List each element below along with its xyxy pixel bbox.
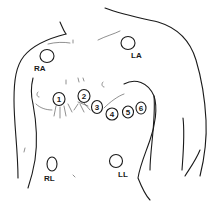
chest-electrodes: 1 2 3 4 5 6: [53, 90, 146, 121]
label-ll: LL: [118, 170, 128, 179]
label-ra: RA: [34, 64, 46, 73]
label-rl: RL: [44, 174, 55, 183]
label-v3: 3: [95, 103, 100, 112]
label-v1: 1: [57, 95, 62, 104]
electrode-ll: [110, 155, 123, 168]
label-la: LA: [131, 51, 142, 60]
label-v5: 5: [126, 108, 131, 117]
label-v2: 2: [82, 92, 87, 101]
ecg-placement-diagram: RA LA RL LL 1 2 3 4 5 6: [0, 0, 215, 208]
electrode-rl: [47, 157, 57, 171]
label-v6: 6: [139, 104, 144, 113]
electrode-ra: [40, 50, 54, 63]
label-v4: 4: [110, 110, 115, 119]
electrode-la: [121, 37, 135, 50]
torso-outline: [14, 8, 206, 200]
